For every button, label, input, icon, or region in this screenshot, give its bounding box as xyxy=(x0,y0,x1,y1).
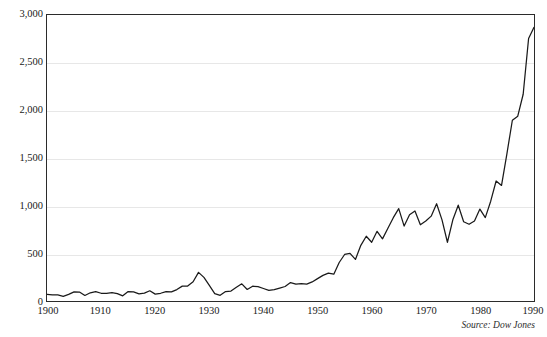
figure-title-cropped xyxy=(10,0,410,3)
x-axis-tick-label: 1910 xyxy=(90,306,111,317)
x-axis-tick-label: 1970 xyxy=(416,306,437,317)
y-axis-tick-label: 2,500 xyxy=(1,57,43,68)
x-axis-tick-label: 1900 xyxy=(38,306,59,317)
series-line-dow-jones xyxy=(47,15,534,301)
y-axis-tick-label: 500 xyxy=(1,249,43,260)
plot-area xyxy=(46,14,535,302)
x-axis-tick-label: 1950 xyxy=(307,306,328,317)
x-axis-tick-label: 1930 xyxy=(199,306,220,317)
x-axis-tick-label: 1960 xyxy=(362,306,383,317)
y-axis: 05001,0001,5002,0002,5003,000 xyxy=(0,14,43,302)
y-axis-tick-label: 2,000 xyxy=(1,105,43,116)
y-axis-tick-label: 1,000 xyxy=(1,201,43,212)
chart-figure: 05001,0001,5002,0002,5003,000 1900191019… xyxy=(0,0,547,337)
x-axis-tick-label: 1980 xyxy=(470,306,491,317)
x-axis-tick-label: 1990 xyxy=(523,306,544,317)
source-note: Source: Dow Jones xyxy=(461,320,535,330)
x-axis-tick-label: 1920 xyxy=(144,306,165,317)
x-axis-tick-label: 1940 xyxy=(253,306,274,317)
y-axis-tick-label: 3,000 xyxy=(1,9,43,20)
y-axis-tick-label: 1,500 xyxy=(1,153,43,164)
